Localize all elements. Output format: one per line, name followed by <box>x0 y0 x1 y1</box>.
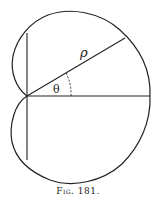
cardioid-curve <box>11 11 150 183</box>
diagram-canvas <box>0 0 156 205</box>
radius-label: ρ <box>80 45 88 60</box>
angle-label: θ <box>53 83 60 96</box>
angle-arc <box>66 73 71 96</box>
radius-vector <box>27 38 125 96</box>
figure-caption: Fig. 181. <box>0 186 156 196</box>
